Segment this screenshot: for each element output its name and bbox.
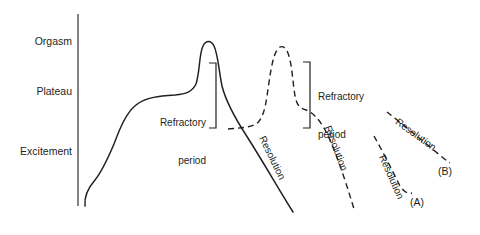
panel-label-a: (A) bbox=[410, 196, 424, 208]
refractory-period-label-2-line1: Refractory bbox=[318, 91, 398, 104]
refractory-bracket-2 bbox=[303, 62, 310, 128]
refractory-period-label-1-line2: period bbox=[132, 155, 206, 168]
refractory-bracket-1 bbox=[209, 63, 216, 128]
figure-canvas bbox=[0, 0, 480, 235]
axis-label-orgasm: Orgasm bbox=[14, 35, 72, 47]
axis-label-plateau: Plateau bbox=[14, 85, 72, 97]
refractory-period-label-1: Refractory period bbox=[132, 92, 206, 192]
axis-label-excitement: Excitement bbox=[6, 145, 72, 157]
refractory-period-label-1-line1: Refractory bbox=[132, 117, 206, 130]
sexual-response-cycle-figure: Orgasm Plateau Excitement Refractory per… bbox=[0, 0, 480, 235]
panel-label-b: (B) bbox=[438, 165, 452, 177]
refractory-period-label-2: Refractory period bbox=[318, 66, 398, 166]
